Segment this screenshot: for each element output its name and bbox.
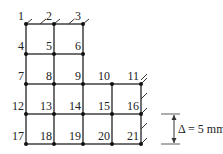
- node-13: [52, 112, 56, 116]
- node-label-15: 15: [98, 99, 110, 113]
- node-14: [81, 112, 85, 116]
- node-18: [52, 142, 56, 146]
- displacement-dimension: Δ = 5 mm: [161, 114, 223, 144]
- node-5: [52, 52, 56, 56]
- node-label-18: 18: [40, 129, 52, 143]
- node-label-11: 11: [127, 69, 139, 83]
- node-4: [24, 52, 28, 56]
- node-8: [52, 82, 56, 86]
- node-label-17: 17: [12, 129, 24, 143]
- node-19: [81, 142, 85, 146]
- node-12: [24, 112, 28, 116]
- node-10: [110, 82, 114, 86]
- support-hatch: [141, 123, 147, 129]
- node-7: [24, 82, 28, 86]
- node-label-13: 13: [40, 99, 52, 113]
- node-label-16: 16: [127, 99, 139, 113]
- node-label-4: 4: [18, 39, 24, 53]
- node-20: [110, 142, 114, 146]
- support-hatch: [69, 19, 75, 24]
- node-label-7: 7: [18, 69, 24, 83]
- node-11: [139, 82, 143, 86]
- node-9: [81, 82, 85, 86]
- node-label-8: 8: [46, 69, 52, 83]
- node-15: [110, 112, 114, 116]
- node-label-21: 21: [127, 129, 139, 143]
- node-label-1: 1: [18, 9, 24, 23]
- node-label-2: 2: [46, 9, 52, 23]
- displacement-label: Δ = 5 mm: [178, 122, 223, 136]
- node-3: [81, 22, 85, 26]
- node-label-3: 3: [75, 9, 81, 23]
- node-6: [81, 52, 85, 56]
- support-hatch: [141, 93, 147, 99]
- node-21: [139, 142, 143, 146]
- node-label-6: 6: [75, 39, 81, 53]
- node-17: [24, 142, 28, 146]
- dimension-arrow-down-icon: [172, 138, 177, 143]
- node-1: [24, 22, 28, 26]
- node-16: [139, 112, 143, 116]
- node-labels: 123456789101112131415161718192021: [12, 9, 139, 143]
- node-2: [52, 22, 56, 26]
- grid-structure-diagram: 123456789101112131415161718192021 Δ = 5 …: [0, 0, 223, 154]
- node-label-20: 20: [98, 129, 110, 143]
- node-label-12: 12: [12, 99, 24, 113]
- node-label-14: 14: [69, 99, 81, 113]
- node-label-9: 9: [75, 69, 81, 83]
- node-label-10: 10: [98, 69, 110, 83]
- dimension-arrow-up-icon: [172, 115, 177, 120]
- node-label-5: 5: [46, 39, 52, 53]
- node-label-19: 19: [69, 129, 81, 143]
